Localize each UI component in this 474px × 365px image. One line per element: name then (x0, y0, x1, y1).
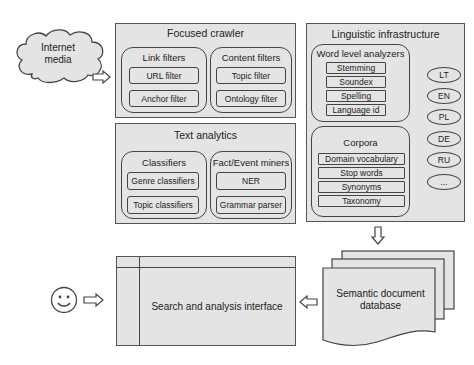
text-analytics-panel: Text analytics Classifiers Genre classif… (115, 123, 296, 224)
corpora-group: Corpora Domain vocabulary Stop words Syn… (311, 126, 410, 217)
language-lt: LT (427, 67, 461, 83)
taxonomy-item: Taxonomy (318, 195, 405, 207)
focused-crawler-title: Focused crawler (116, 27, 295, 39)
focused-crawler-panel: Focused crawler Link filters URL filter … (115, 23, 296, 118)
link-filters-group: Link filters URL filter Anchor filter (121, 47, 207, 113)
corpora-title: Corpora (312, 137, 409, 148)
fact-event-miners-title: Fact/Event miners (211, 157, 291, 168)
content-filters-title: Content filters (211, 52, 291, 63)
link-filters-title: Link filters (122, 52, 206, 63)
fact-event-miners-group: Fact/Event miners NER Grammar parser (210, 151, 292, 219)
text-analytics-title: Text analytics (116, 129, 295, 141)
domain-vocabulary-item: Domain vocabulary (318, 153, 405, 165)
classifiers-group: Classifiers Genre classifiers Topic clas… (121, 151, 207, 219)
arrow-right-icon (83, 293, 105, 307)
genre-classifiers-item: Genre classifiers (127, 172, 199, 190)
url-filter-item: URL filter (129, 67, 199, 84)
smiley-user-icon (50, 286, 78, 314)
arrow-down-icon (371, 226, 385, 246)
database-label: Semantic document database (328, 285, 433, 315)
anchor-filter-item: Anchor filter (129, 90, 199, 107)
language-id-item: Language id (326, 104, 386, 116)
stop-words-item: Stop words (318, 167, 405, 179)
language-de: DE (427, 131, 461, 147)
language-more: ... (427, 174, 461, 190)
soundex-item: Soundex (326, 76, 386, 88)
ner-item: NER (216, 172, 286, 190)
word-level-analyzers-title: Word level analyzers (312, 48, 409, 59)
content-filters-group: Content filters Topic filter Ontology fi… (210, 47, 292, 113)
word-level-analyzers-group: Word level analyzers Stemming Soundex Sp… (311, 44, 410, 122)
spelling-item: Spelling (326, 90, 386, 102)
language-en: EN (427, 88, 461, 104)
internet-media-label: Internet media (22, 38, 94, 70)
grammar-parser-item: Grammar parser (216, 196, 286, 214)
language-ru: RU (427, 152, 461, 168)
synonyms-item: Synonyms (318, 181, 405, 193)
topic-filter-item: Topic filter (216, 67, 286, 84)
linguistic-infrastructure-panel: Linguistic infrastructure Word level ana… (306, 23, 465, 222)
arrow-left-icon (298, 295, 318, 309)
linguistic-infrastructure-title: Linguistic infrastructure (307, 28, 464, 40)
ontology-filter-item: Ontology filter (216, 90, 286, 107)
stemming-item: Stemming (326, 62, 386, 74)
arrow-right-icon (92, 70, 112, 84)
language-pl: PL (427, 109, 461, 125)
classifiers-title: Classifiers (122, 157, 206, 168)
search-analysis-interface: Search and analysis interface (116, 256, 296, 346)
interface-label: Search and analysis interface (139, 268, 295, 345)
topic-classifiers-item: Topic classifiers (127, 196, 199, 214)
